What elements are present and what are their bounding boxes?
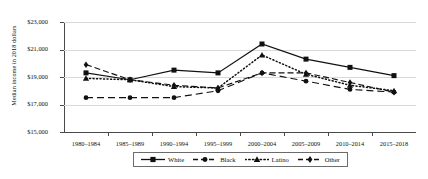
data-point [172,68,177,73]
y-axis-tick-label: $19,000 [4,74,48,80]
y-axis-tick-label: $21,000 [4,46,48,52]
legend-label: Latino [271,155,289,164]
series-line [86,55,394,91]
x-axis-tick [240,132,241,136]
legend-marker-square-icon [141,155,165,164]
series-line [86,73,394,98]
data-point [84,95,89,100]
data-point [216,70,221,75]
data-point [260,70,265,77]
data-point [260,42,265,47]
legend-item-white[interactable]: White [141,155,184,164]
y-axis-tick-label: $15,000 [4,129,48,135]
x-axis-tick-label: 2015–2018 [380,140,408,147]
legend-label: Black [219,155,235,164]
chart-legend: WhiteBlackLatinoOther [133,152,348,167]
legend-marker-triangle-icon [245,155,269,164]
legend-marker-circle-icon [193,155,217,164]
y-axis-tick-label: $23,000 [4,19,48,25]
x-axis-tick [152,132,153,136]
data-point [348,65,353,70]
x-axis-tick-label: 1980–1984 [72,140,100,147]
x-axis-tick-label: 2010–2014 [336,140,364,147]
y-axis-tick [60,132,64,133]
data-point [392,89,397,96]
series-white [84,42,397,83]
data-point [84,70,89,75]
x-axis-tick-label: 1995–1999 [204,140,232,147]
legend-marker-diamond-icon [298,155,322,164]
y-axis-tick-label: $17,000 [4,101,48,107]
data-point [392,73,397,78]
series-layer [64,22,416,132]
legend-item-latino[interactable]: Latino [245,155,289,164]
data-point [128,95,133,100]
legend-item-black[interactable]: Black [193,155,235,164]
data-point [304,57,309,62]
series-line [86,44,394,80]
data-point [83,75,89,81]
data-point [172,95,177,100]
data-point [259,52,265,58]
x-axis-tick [196,132,197,136]
chart-figure: Median income in 2018 dollars $15,000$17… [0,0,428,179]
x-axis-tick-label: 1990–1994 [160,140,188,147]
x-axis-tick [108,132,109,136]
legend-item-other[interactable]: Other [298,155,340,164]
x-axis-tick [284,132,285,136]
plot-area: $15,000$17,000$19,000$21,000$23,000 1980… [64,22,416,132]
data-point [304,79,309,84]
x-axis-tick-label: 2000–2004 [248,140,276,147]
legend-label: Other [324,155,340,164]
legend-label: White [167,155,184,164]
data-point [84,61,89,68]
data-point [348,87,353,92]
x-axis-tick-label: 2005–2009 [292,140,320,147]
x-axis-tick [328,132,329,136]
x-axis-tick-label: 1985–1989 [116,140,144,147]
x-axis-tick [372,132,373,136]
